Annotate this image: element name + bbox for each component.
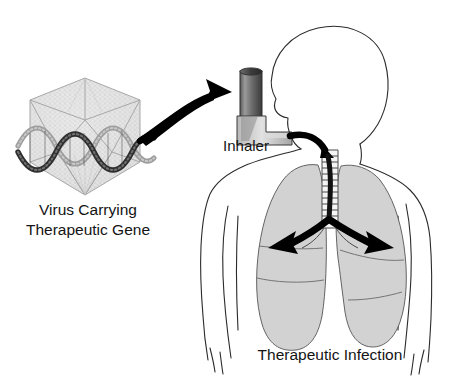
- gene-therapy-diagram: Virus Carrying Therapeutic Gene Inhaler …: [0, 0, 462, 379]
- diagram-canvas: Virus Carrying Therapeutic Gene Inhaler …: [0, 0, 462, 379]
- inhaler-icon: [237, 68, 292, 145]
- curved-arrow-virus-to-inhaler-icon: [140, 79, 232, 146]
- inhaler-label: Inhaler: [223, 137, 269, 154]
- virus-label-line2: Therapeutic Gene: [26, 221, 150, 238]
- figure-caption: Therapeutic Infection: [258, 346, 403, 363]
- virus-label-line1: Virus Carrying: [39, 201, 137, 218]
